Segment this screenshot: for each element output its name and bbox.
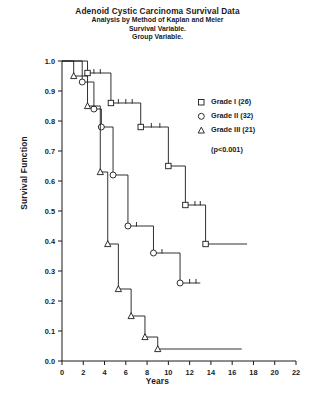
legend-item-grade-2: Grade II (32) (196, 109, 308, 123)
y-tick-label: 0.0 (45, 357, 55, 366)
series-point-circle (177, 280, 183, 286)
triangle-marker (196, 124, 208, 136)
y-tick-label: 0.6 (45, 177, 55, 186)
chart-page: Adenoid Cystic Carcinoma Survival Data A… (0, 0, 315, 397)
y-tick-label: 0.2 (45, 297, 55, 306)
legend-label-grade-3: Grade III (21) (211, 126, 255, 133)
circle-marker (196, 110, 208, 122)
legend-label-grade-2: Grade II (32) (211, 112, 253, 119)
series-point-circle (150, 250, 156, 256)
legend-item-grade-3: Grade III (21) (196, 123, 308, 137)
series-point-circle (98, 124, 104, 130)
y-axis-label: Survival Function (19, 103, 29, 243)
y-tick-label: 0.5 (45, 207, 55, 216)
series-point-circle (110, 172, 116, 178)
y-tick-label: 1.0 (45, 57, 55, 66)
x-axis-label: Years (0, 376, 315, 386)
series-point-square (183, 202, 188, 207)
y-tick-label: 0.7 (45, 147, 55, 156)
series-point-square (108, 100, 113, 105)
p-value-annotation: (p<0.001) (211, 146, 308, 153)
plot-svg: 02468101214161820220.00.10.20.30.40.50.6… (0, 0, 315, 397)
y-tick-label: 0.8 (45, 117, 55, 126)
series-point-square (203, 241, 208, 246)
series-point-square (138, 124, 143, 129)
y-tick-label: 0.3 (45, 267, 55, 276)
series-point-square (166, 163, 171, 168)
square-marker (196, 96, 208, 108)
plot-area: 02468101214161820220.00.10.20.30.40.50.6… (0, 0, 315, 397)
series-point-circle (91, 106, 97, 112)
y-tick-label: 0.1 (45, 327, 55, 336)
y-tick-label: 0.9 (45, 87, 55, 96)
series-point-circle (79, 79, 85, 85)
y-tick-label: 0.4 (45, 237, 56, 246)
legend-label-grade-1: Grade I (26) (211, 98, 251, 105)
series-step-line (62, 61, 200, 283)
legend: Grade I (26) Grade II (32) Grade III (21… (196, 95, 308, 153)
series-point-square (85, 70, 90, 75)
series-point-circle (125, 223, 131, 229)
legend-item-grade-1: Grade I (26) (196, 95, 308, 109)
